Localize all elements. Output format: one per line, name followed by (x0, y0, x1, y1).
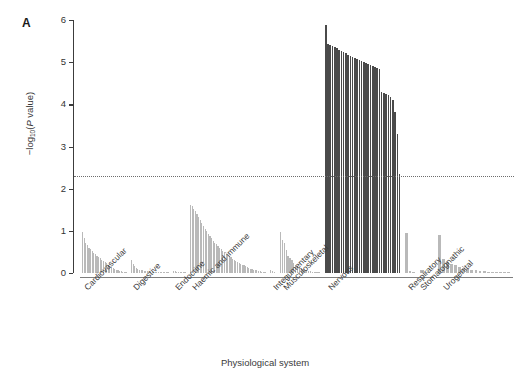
chart-bar (483, 271, 486, 273)
y-axis-tick-label: 3 (46, 141, 66, 152)
y-axis-tick (69, 20, 73, 21)
significance-threshold-line (74, 176, 514, 177)
chart-bar (399, 174, 401, 273)
y-axis-tick-label: 1 (46, 225, 66, 236)
y-axis-tick (69, 189, 73, 190)
y-axis-tick-label: 6 (46, 14, 66, 25)
y-axis-title: −log10(P value) (24, 49, 35, 199)
chart-bar (264, 272, 265, 273)
y-axis-tick-label: 0 (46, 267, 66, 278)
chart-bar (507, 272, 510, 273)
chart-bar (470, 270, 473, 273)
y-axis-title-sub: 10 (29, 130, 36, 137)
y-axis-tick (69, 62, 73, 63)
y-axis-title-prefix: −log (24, 137, 35, 155)
panel-letter: A (22, 16, 31, 30)
chart-bar (405, 233, 408, 273)
chart-bar (503, 272, 506, 273)
chart-bar (475, 270, 478, 273)
chart-bar (491, 272, 494, 273)
y-axis-tick-label: 4 (46, 98, 66, 109)
chart-bar (319, 272, 320, 273)
chart-bar (495, 272, 498, 273)
chart-bar (409, 271, 412, 273)
chart-bar (479, 271, 482, 273)
y-axis-tick (69, 147, 73, 148)
y-axis-tick (69, 231, 73, 232)
plot-area (74, 20, 514, 273)
chart-bar (412, 272, 415, 273)
y-axis-tick (69, 104, 73, 105)
chart-bar (487, 272, 490, 273)
chart-bar (274, 272, 275, 273)
chart-figure: A −log10(P value) 0123456 Cardiovascular… (0, 0, 530, 389)
y-axis-tick (69, 273, 73, 274)
y-axis-title-suffix: value) (24, 92, 35, 121)
y-axis-tick-label: 2 (46, 183, 66, 194)
y-axis-title-italic: P (24, 120, 35, 126)
y-axis-tick-label: 5 (46, 56, 66, 67)
chart-bar (499, 272, 502, 273)
chart-bar (125, 272, 126, 273)
x-axis-title: Physiological system (0, 357, 530, 368)
chart-bar (167, 272, 168, 273)
